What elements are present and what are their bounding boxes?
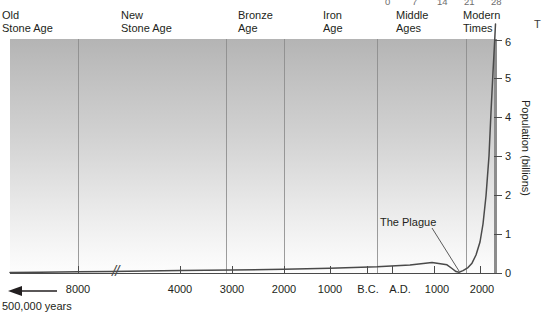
era-label-line2: Ages [396, 22, 428, 35]
era-divider-2 [226, 39, 227, 273]
era-label-line2: Times [463, 22, 500, 35]
y-tick-1 [494, 234, 502, 235]
x-tick-1000bc [330, 266, 331, 274]
x-tick-label-1000ad: 1000 [425, 283, 449, 295]
era-divider-5 [466, 39, 467, 273]
y-tick-2 [494, 195, 502, 196]
y-tick-label-1: 1 [505, 228, 511, 240]
span-arrow-head [8, 286, 22, 296]
y-tick-label-4: 4 [505, 111, 511, 123]
y-tick-6 [494, 40, 502, 41]
y-tick-label-0: 0 [505, 267, 511, 279]
x-tick-label-2000ad: 2000 [470, 283, 494, 295]
x-axis-line [10, 273, 497, 274]
axis-break-symbol: // [112, 262, 118, 279]
annotation-the-plague: The Plague [380, 216, 436, 228]
x-tick-1000ad [434, 266, 435, 274]
top-scale-tick-0: 0 [385, 0, 390, 7]
era-label-line1: Middle [396, 9, 428, 22]
y-tick-3 [494, 156, 502, 157]
era-label-bronze-age: Bronze Age [238, 9, 273, 35]
x-tick-2000ad [480, 266, 481, 274]
x-tick-ad [392, 266, 393, 274]
population-growth-chart: 0 7 14 21 28 T Old Stone Age New Stone A… [0, 0, 546, 317]
era-label-line2: Age [238, 22, 273, 35]
x-tick-2000bc [284, 266, 285, 274]
top-scale-tick-3: 21 [464, 0, 475, 7]
y-tick-4 [494, 117, 502, 118]
x-tick-4000 [180, 266, 181, 274]
era-label-line1: Bronze [238, 9, 273, 22]
era-label-line2: Stone Age [121, 22, 172, 35]
era-label-row: Old Stone Age New Stone Age Bronze Age I… [0, 9, 546, 37]
era-label-line1: Iron [323, 9, 343, 22]
era-label-modern-times: Modern Times [463, 9, 500, 35]
era-divider-3 [284, 39, 285, 273]
x-tick-label-1000bc: 1000 [318, 283, 342, 295]
x-tick-label-ad: A.D. [389, 283, 410, 295]
era-divider-1 [78, 39, 79, 273]
era-label-middle-ages: Middle Ages [396, 9, 428, 35]
y-axis-title: Population (billions) [520, 100, 532, 196]
y-tick-0 [494, 273, 502, 274]
top-scale-tick-2: 14 [437, 0, 448, 7]
era-label-line1: Modern [463, 9, 500, 22]
x-tick-label-3000: 3000 [220, 283, 244, 295]
top-scale-tick-4: 28 [491, 0, 502, 7]
x-tick-label-bc: B.C. [357, 283, 378, 295]
secondary-top-scale: 0 7 14 21 28 [0, 0, 546, 8]
era-label-iron-age: Iron Age [323, 9, 343, 35]
x-tick-label-8000: 8000 [66, 283, 90, 295]
era-label-line1: Old [2, 9, 53, 22]
y-tick-5 [494, 78, 502, 79]
era-label-old-stone-age: Old Stone Age [2, 9, 53, 35]
y-tick-label-5: 5 [505, 72, 511, 84]
era-label-line1: New [121, 9, 172, 22]
y-tick-label-3: 3 [505, 150, 511, 162]
y-tick-label-2: 2 [505, 189, 511, 201]
x-tick-label-2000bc: 2000 [272, 283, 296, 295]
x-tick-3000 [232, 266, 233, 274]
era-divider-4 [377, 39, 378, 273]
top-scale-tick-1: 7 [412, 0, 417, 7]
y-tick-label-6: 6 [505, 36, 511, 48]
plot-area [10, 39, 497, 273]
x-tick-label-4000: 4000 [168, 283, 192, 295]
era-label-line2: Stone Age [2, 22, 53, 35]
x-tick-8000 [78, 266, 79, 274]
x-tick-bc [367, 266, 368, 274]
era-label-line2: Age [323, 22, 343, 35]
era-label-new-stone-age: New Stone Age [121, 9, 172, 35]
axis-break-note: 500,000 years [2, 300, 72, 312]
